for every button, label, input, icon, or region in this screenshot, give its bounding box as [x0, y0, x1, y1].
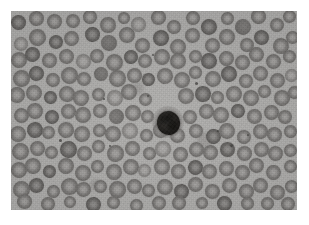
erythrocyte: [97, 13, 120, 36]
platelet: [247, 134, 249, 136]
erythrocyte: [263, 105, 278, 120]
erythrocyte: [106, 106, 127, 127]
erythrocyte: [80, 11, 99, 27]
erythrocyte: [42, 89, 58, 105]
erythrocyte: [235, 128, 254, 147]
blood-smear-micrograph: [11, 11, 297, 210]
platelet: [230, 144, 233, 147]
erythrocyte: [170, 53, 187, 70]
erythrocyte: [170, 163, 188, 181]
erythrocyte: [47, 33, 66, 52]
erythrocyte: [72, 124, 93, 145]
erythrocyte: [27, 27, 48, 48]
platelet: [152, 54, 154, 56]
erythrocyte: [233, 17, 252, 36]
platelet: [217, 130, 219, 132]
erythrocyte: [265, 125, 284, 144]
erythrocyte: [201, 52, 218, 69]
platelet: [103, 98, 105, 100]
erythrocyte: [102, 123, 124, 145]
leukocyte-nuclear-lobe: [167, 120, 177, 130]
erythrocyte: [55, 120, 76, 141]
erythrocyte: [282, 142, 297, 157]
platelet: [59, 139, 62, 142]
platelet: [195, 82, 198, 85]
erythrocyte: [26, 102, 44, 120]
erythrocyte: [27, 138, 48, 159]
erythrocyte: [44, 146, 58, 160]
leukocyte-nuclear-lobe: [166, 114, 173, 121]
erythrocyte: [210, 90, 225, 105]
erythrocyte: [253, 142, 269, 158]
erythrocyte: [138, 164, 152, 178]
erythrocyte: [60, 66, 78, 84]
erythrocyte: [153, 138, 174, 159]
platelet: [109, 145, 111, 147]
erythrocyte: [11, 15, 26, 30]
erythrocyte: [200, 19, 217, 36]
erythrocyte: [282, 122, 297, 140]
erythrocyte: [170, 144, 190, 164]
erythrocyte: [11, 141, 30, 161]
erythrocyte: [178, 88, 194, 104]
erythrocyte: [77, 145, 93, 161]
erythrocyte: [84, 26, 101, 43]
platelet: [147, 95, 149, 97]
erythrocyte: [130, 199, 143, 210]
erythrocyte: [41, 163, 58, 180]
erythrocyte: [249, 11, 269, 27]
erythrocyte: [105, 163, 122, 180]
erythrocyte: [92, 103, 108, 119]
erythrocyte: [148, 11, 168, 27]
erythrocyte: [205, 184, 220, 199]
erythrocyte: [185, 11, 201, 26]
erythrocyte: [124, 177, 144, 197]
erythrocyte: [26, 11, 47, 29]
erythrocyte: [11, 125, 27, 143]
erythrocyte: [216, 158, 236, 178]
erythrocyte: [122, 138, 142, 158]
erythrocyte: [46, 13, 63, 30]
erythrocyte: [269, 72, 285, 88]
erythrocyte: [121, 122, 140, 141]
erythrocyte: [252, 28, 271, 47]
erythrocyte: [85, 196, 102, 210]
erythrocyte: [155, 66, 175, 86]
erythrocyte: [283, 159, 297, 173]
erythrocyte: [93, 67, 108, 82]
erythrocyte: [248, 157, 266, 175]
erythrocyte: [11, 86, 26, 105]
erythrocyte: [220, 141, 236, 157]
erythrocyte: [150, 156, 172, 178]
erythrocyte: [101, 35, 117, 51]
erythrocyte: [63, 30, 82, 49]
erythrocyte: [230, 103, 246, 119]
erythrocyte: [220, 12, 234, 26]
erythrocyte: [43, 70, 63, 90]
erythrocyte: [285, 30, 297, 44]
erythrocyte: [90, 138, 108, 156]
erythrocyte: [41, 125, 57, 141]
erythrocyte: [123, 103, 143, 123]
erythrocyte: [62, 194, 79, 210]
erythrocyte: [57, 47, 75, 65]
screenshot-canvas: [0, 0, 309, 225]
erythrocyte: [165, 18, 183, 36]
erythrocyte: [25, 47, 41, 63]
erythrocyte: [63, 12, 81, 30]
erythrocyte: [238, 73, 253, 88]
erythrocyte: [264, 52, 283, 71]
erythrocyte: [137, 53, 154, 70]
erythrocyte: [29, 178, 45, 194]
